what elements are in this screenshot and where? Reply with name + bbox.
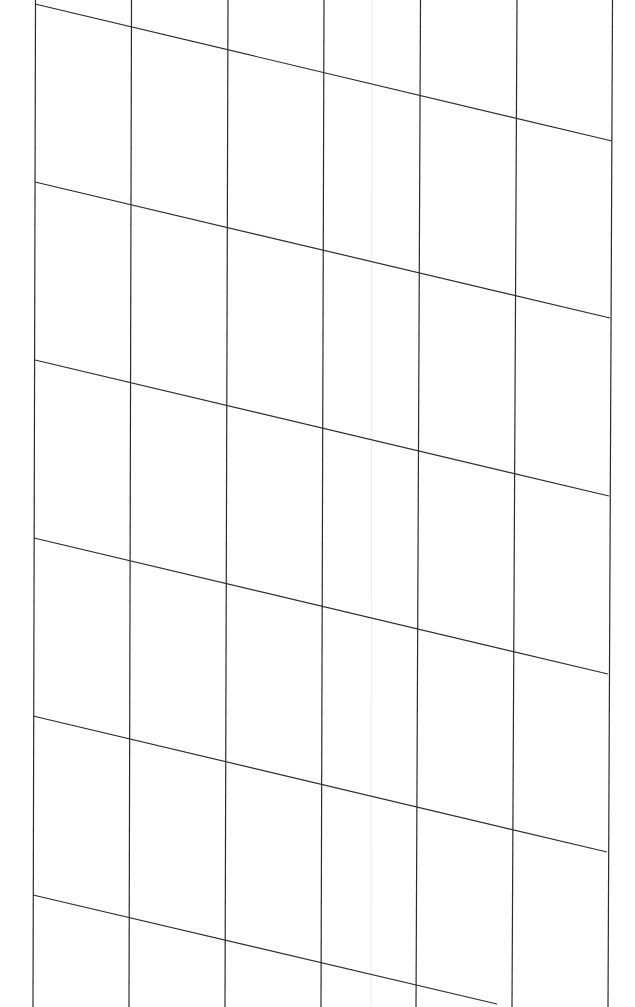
faint-scan-line (371, 0, 372, 1007)
vertical-grid-line (608, 0, 613, 1007)
faint-scan-lines (371, 0, 372, 1007)
slanted-grid-line (33, 716, 607, 852)
graph-paper-sheet (0, 0, 635, 1007)
slanted-grid-line (35, 182, 610, 318)
vertical-grid-line (321, 0, 324, 1007)
vertical-grid-line (33, 0, 36, 1007)
grid-drawing (0, 0, 635, 1007)
vertical-grid-line (512, 0, 517, 1007)
vertical-grid-lines (33, 0, 613, 1007)
slanted-grid-line (34, 538, 608, 674)
vertical-grid-line (129, 0, 132, 1007)
vertical-grid-line (416, 0, 421, 1007)
vertical-grid-line (225, 0, 228, 1007)
slanted-grid-line (33, 895, 497, 1004)
